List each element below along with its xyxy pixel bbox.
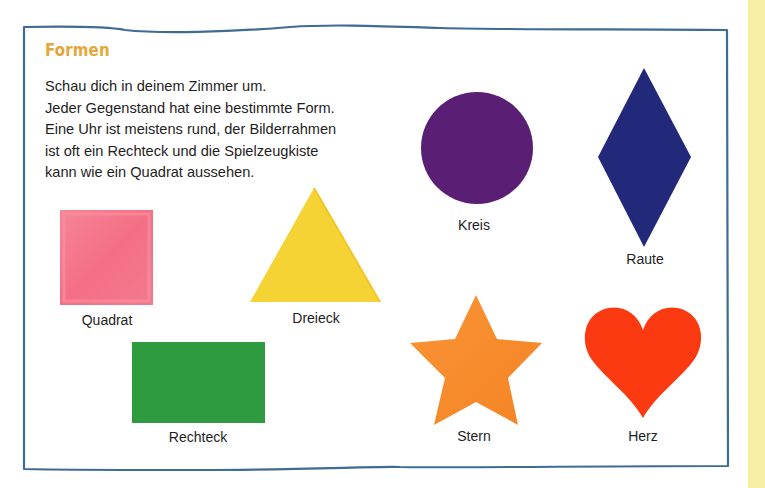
label-kreis: Kreis — [458, 217, 490, 233]
label-raute: Raute — [626, 251, 663, 267]
square-shape — [60, 210, 153, 305]
label-rechteck: Rechteck — [169, 429, 227, 445]
triangle-shape — [250, 188, 380, 302]
heart-shape — [585, 308, 701, 418]
label-quadrat: Quadrat — [82, 312, 133, 328]
label-herz: Herz — [628, 428, 658, 444]
star-shape — [410, 295, 542, 425]
rectangle-shape — [132, 342, 265, 423]
diamond-shape — [598, 68, 691, 247]
circle-shape — [421, 92, 533, 204]
label-stern: Stern — [457, 428, 490, 444]
label-dreieck: Dreieck — [292, 310, 339, 326]
